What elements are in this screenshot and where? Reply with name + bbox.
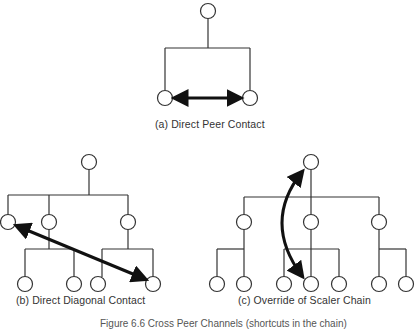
org-node-circle (82, 155, 97, 170)
org-node-circle (67, 277, 82, 292)
org-node-circle (91, 277, 106, 292)
org-node-circle (42, 215, 57, 230)
diagram-override-scaler-chain (210, 155, 414, 292)
org-node-circle (1, 215, 16, 230)
org-node-circle (372, 215, 387, 230)
org-node-circle (18, 277, 33, 292)
org-node-circle (277, 277, 292, 292)
org-node-circle (399, 277, 414, 292)
double-arrow-icon (17, 226, 145, 279)
org-node-circle (237, 277, 252, 292)
caption-a: (a) Direct Peer Contact (155, 118, 265, 130)
org-node-circle (121, 215, 136, 230)
org-node-circle (210, 277, 225, 292)
org-node-circle (372, 277, 387, 292)
caption-c: (c) Override of Scaler Chain (238, 294, 371, 306)
diagram-direct-diagonal-contact (1, 155, 161, 292)
org-node-circle (243, 91, 258, 106)
diagram-direct-peer-contact (158, 4, 258, 106)
figure-caption: Figure 6.6 Cross Peer Channels (shortcut… (100, 318, 347, 329)
org-node-circle (158, 91, 173, 106)
org-node-circle (304, 155, 319, 170)
org-node-circle (237, 215, 252, 230)
org-node-circle (332, 277, 347, 292)
double-arrow-icon (282, 172, 302, 276)
org-node-circle (304, 277, 319, 292)
org-node-circle (201, 4, 216, 19)
org-node-circle (146, 277, 161, 292)
org-node-circle (304, 215, 319, 230)
caption-b: (b) Direct Diagonal Contact (16, 294, 145, 306)
